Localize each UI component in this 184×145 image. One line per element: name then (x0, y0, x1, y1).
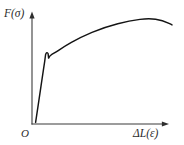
force-elongation-curve (36, 19, 172, 123)
arrow-up-icon (29, 12, 34, 19)
stress-strain-figure: F(σ) ΔL(ε) O (0, 0, 184, 145)
origin-label: O (21, 128, 29, 139)
y-axis-label: F(σ) (4, 8, 24, 20)
arrow-right-icon (162, 121, 169, 126)
x-axis-label: ΔL(ε) (133, 128, 158, 140)
plot-canvas (0, 0, 184, 145)
